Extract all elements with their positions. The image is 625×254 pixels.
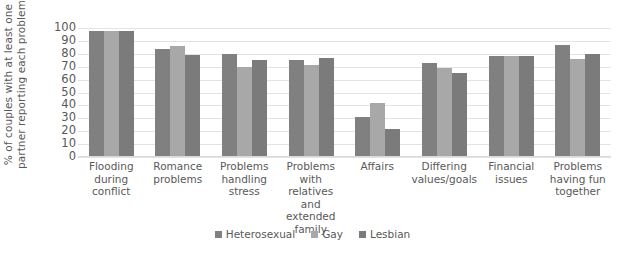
x-axis-category-label-line: Problems <box>546 160 610 173</box>
legend-swatch-icon <box>215 231 222 238</box>
legend-label: Gay <box>322 229 343 240</box>
x-axis-category-label-line: Financial <box>479 160 543 173</box>
legend-label: Heterosexual <box>226 229 295 240</box>
x-axis-category-label: Floodingduringconflict <box>78 160 144 220</box>
bar <box>370 103 385 157</box>
x-axis-category-label-line: Problems with <box>278 160 342 185</box>
legend-swatch-icon <box>359 231 366 238</box>
x-axis-category-label: Affairs <box>344 160 410 220</box>
y-axis-tick-label: 40 <box>61 100 76 112</box>
legend-label: Lesbian <box>370 229 410 240</box>
bar <box>437 68 452 157</box>
legend-item[interactable]: Heterosexual <box>215 229 295 240</box>
bar <box>519 56 534 157</box>
x-axis-category-label-line: Romance <box>145 160 209 173</box>
y-axis-tick-label: 70 <box>61 61 76 73</box>
y-axis-tick-label: 0 <box>69 151 76 163</box>
bar <box>504 56 519 157</box>
x-axis-category-label: Problemshaving funtogether <box>545 160 611 220</box>
x-axis-category-label-line: having fun <box>546 173 610 186</box>
bar <box>119 31 134 157</box>
bar <box>385 129 400 157</box>
bar <box>319 58 334 157</box>
bar <box>555 45 570 157</box>
x-axis-category-label-line: Flooding <box>79 160 143 173</box>
bar <box>570 59 585 157</box>
bar <box>89 31 104 157</box>
x-axis-category-label: Problemshandlingstress <box>211 160 277 220</box>
x-axis-category-labels: FloodingduringconflictRomanceproblemsPro… <box>78 160 611 220</box>
bar-group <box>411 28 478 157</box>
legend-item[interactable]: Lesbian <box>359 229 410 240</box>
bar-chart: % of couples with at least one partner r… <box>0 0 625 254</box>
x-axis-category-label: Problems withrelatives andextendedfamily <box>277 160 343 220</box>
x-axis-category-label-line: stress <box>212 185 276 198</box>
bar-groups <box>78 28 611 157</box>
plot-area <box>78 28 611 157</box>
y-axis-tick-label: 20 <box>61 125 76 137</box>
gridline <box>78 157 611 158</box>
y-axis-tick-label: 90 <box>61 35 76 47</box>
bar-group <box>211 28 278 157</box>
bar <box>222 54 237 157</box>
bar-group <box>345 28 412 157</box>
y-axis-tick-label: 50 <box>61 87 76 99</box>
bar-group <box>145 28 212 157</box>
legend-item[interactable]: Gay <box>311 229 343 240</box>
x-axis-category-label-line: Problems <box>212 160 276 173</box>
bar <box>104 31 119 157</box>
x-axis-category-label-line: Differing <box>411 160 477 173</box>
y-axis-tick-label: 10 <box>61 138 76 150</box>
x-axis-category-label-line: values/goals <box>411 173 477 186</box>
x-axis-category-label: Romanceproblems <box>144 160 210 220</box>
bar <box>289 60 304 157</box>
x-axis-line <box>78 156 611 157</box>
x-axis-category-label-line: during <box>79 173 143 186</box>
bar <box>489 56 504 157</box>
y-axis-tick-label: 80 <box>61 48 76 60</box>
bar <box>585 54 600 157</box>
x-axis-category-label-line: issues <box>479 173 543 186</box>
legend: HeterosexualGayLesbian <box>0 226 625 242</box>
bar <box>170 46 185 157</box>
bar-group <box>78 28 145 157</box>
x-axis-category-label-line: conflict <box>79 185 143 198</box>
y-axis-tick-label: 30 <box>61 113 76 125</box>
y-axis-tick-label: 100 <box>54 22 76 34</box>
x-axis-category-label-line: Affairs <box>345 160 409 173</box>
bar <box>237 67 252 157</box>
bar-group <box>544 28 611 157</box>
y-axis-title-line-2: partner reporting each problem <box>15 0 28 169</box>
x-axis-category-label-line: relatives and <box>278 185 342 210</box>
y-axis-title-line-1: % of couples with at least one <box>2 4 15 165</box>
bar <box>422 63 437 157</box>
bar <box>452 73 467 157</box>
legend-swatch-icon <box>311 231 318 238</box>
x-axis-category-label-line: together <box>546 185 610 198</box>
x-axis-category-label-line: handling <box>212 173 276 186</box>
bar <box>185 55 200 157</box>
x-axis-category-label-line: problems <box>145 173 209 186</box>
bar <box>252 60 267 157</box>
bar <box>304 65 319 157</box>
bar <box>355 117 370 157</box>
x-axis-category-label: Financialissues <box>478 160 544 220</box>
bar-group <box>478 28 545 157</box>
y-axis-tick-labels: 1009080706050403020100 <box>46 28 76 157</box>
bar <box>155 49 170 157</box>
x-axis-category-label-line: extended <box>278 210 342 223</box>
x-axis-category-label: Differingvalues/goals <box>410 160 478 220</box>
bar-group <box>278 28 345 157</box>
y-axis-tick-label: 60 <box>61 74 76 86</box>
